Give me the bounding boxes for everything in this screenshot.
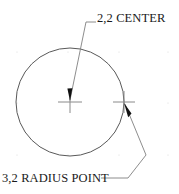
grid-dot [16, 51, 17, 52]
grid-dot [167, 154, 168, 155]
grid-dot-layer [16, 51, 168, 155]
grid-dot [118, 51, 119, 52]
grid-dot [67, 51, 68, 52]
center-arrowhead-icon [67, 88, 72, 101]
grid-dot [67, 154, 68, 155]
grid-dot [16, 102, 17, 103]
grid-dot [16, 154, 17, 155]
grid-dot [167, 51, 168, 52]
grid-dot [167, 102, 168, 103]
radius-arrowhead-icon [124, 103, 132, 117]
technical-drawing-canvas: 2,2 CENTER 3,2 RADIUS POINT [0, 0, 179, 194]
center-annotation-label: 2,2 CENTER [97, 12, 165, 25]
cad-drawing-svg [0, 0, 179, 194]
center-leader-line [70, 22, 96, 100]
radius-annotation-label: 3,2 RADIUS POINT [2, 172, 109, 185]
radius-point-crosshair [113, 91, 135, 113]
grid-dot [118, 154, 119, 155]
